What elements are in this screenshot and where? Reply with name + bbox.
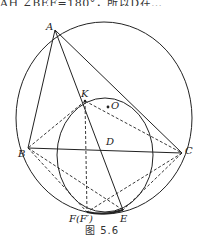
label-C: C [185, 145, 193, 156]
label-O: O [111, 100, 119, 111]
geometry-figure: A K O D B C F(F′) E [0, 0, 204, 240]
dashed-CF [87, 153, 182, 212]
outer-circle [16, 22, 192, 214]
segment-BC [28, 148, 182, 153]
label-D: D [105, 136, 114, 147]
dashed-KF [85, 101, 87, 212]
figure-caption: 图 5.6 [0, 222, 204, 237]
dashed-KB [28, 101, 85, 148]
segment-AE [55, 30, 123, 210]
label-B: B [17, 148, 25, 159]
label-K: K [80, 88, 89, 99]
point-K-dot [84, 100, 86, 102]
point-O-dot [107, 106, 110, 109]
label-A: A [45, 21, 53, 32]
segment-AC [55, 30, 182, 153]
segment-AB [28, 30, 55, 148]
